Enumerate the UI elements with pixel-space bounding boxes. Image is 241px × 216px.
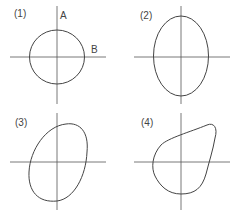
panel-label: (2)	[140, 10, 152, 21]
panel-label: (3)	[15, 117, 27, 128]
panel-label: (1)	[14, 8, 26, 19]
panel-1: (1) A B	[10, 6, 106, 104]
axis-label-b: B	[91, 44, 98, 55]
panel-2: (2)	[134, 6, 230, 104]
panel-label: (4)	[141, 117, 153, 128]
axis-label-a: A	[60, 10, 67, 21]
tilted-ellipse-curve	[29, 124, 87, 201]
panel-4: (4)	[134, 113, 230, 210]
panel-3: (3)	[10, 113, 106, 210]
distorted-curve	[153, 124, 216, 194]
lissajous-figure: (1) A B (2) (3) (4)	[0, 0, 241, 216]
